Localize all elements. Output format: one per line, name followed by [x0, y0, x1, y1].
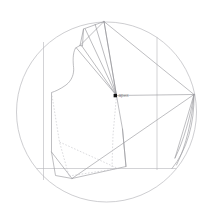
side-seam-right-path: [117, 96, 127, 167]
dashed-construction-lines: [52, 93, 119, 177]
bodice-outline-path: [52, 22, 105, 179]
ray-neck-1: [82, 46, 117, 96]
ray-shoulder-1: [85, 29, 117, 96]
ray-shoulder-3: [104, 22, 117, 96]
diagonal-major-path: [72, 95, 194, 179]
guide-lines: [37, 37, 176, 180]
dashed-dart-underlay: [60, 142, 119, 169]
apex-pivot-marker[interactable]: [114, 94, 117, 97]
ray-shoulder-2: [95, 24, 117, 96]
dashed-center-drop: [112, 96, 117, 168]
pattern-drafting-svg: apex: [0, 0, 211, 219]
pattern-outlines: [52, 22, 195, 179]
dart-rotation-rays: [76, 22, 117, 96]
dashed-hem-shadow: [69, 169, 118, 177]
diagram-canvas: apex: [0, 0, 211, 219]
ray-armhole-1: [76, 48, 117, 96]
apex-pivot-label: apex: [118, 93, 129, 98]
